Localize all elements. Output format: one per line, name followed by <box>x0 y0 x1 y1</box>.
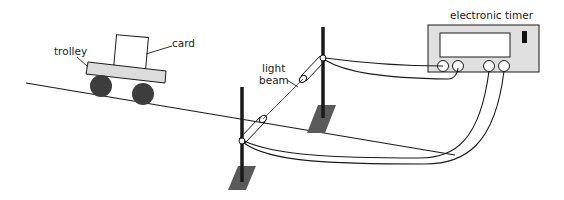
label-light-beam-1: light <box>262 62 285 74</box>
light-gate-upper <box>298 27 336 133</box>
wheel-rear-icon <box>132 83 154 105</box>
label-electronic-timer: electronic timer <box>450 9 534 21</box>
electronic-timer <box>428 25 539 72</box>
trolley <box>86 35 166 105</box>
diagram-canvas: trolley card light beam electronic timer <box>0 0 564 200</box>
light-gate-lower <box>228 87 268 190</box>
timer-display <box>440 33 510 57</box>
label-trolley: trolley <box>54 45 87 57</box>
wheel-front-icon <box>90 75 112 97</box>
label-light-beam-2: beam <box>259 74 289 86</box>
timer-switch <box>522 31 527 43</box>
socket-4-icon <box>499 61 510 72</box>
socket-3-icon <box>484 61 495 72</box>
label-card: card <box>172 37 195 49</box>
